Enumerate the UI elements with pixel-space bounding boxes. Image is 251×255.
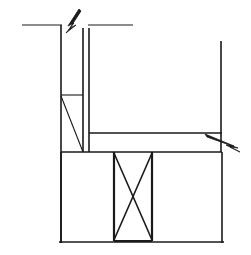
- structural-section-drawing: [0, 0, 251, 255]
- drawing-canvas: [0, 0, 251, 255]
- break-symbol-top-icon: [66, 9, 81, 33]
- diagonal-brace-line: [61, 96, 83, 152]
- break-symbol-right-icon: [205, 134, 240, 152]
